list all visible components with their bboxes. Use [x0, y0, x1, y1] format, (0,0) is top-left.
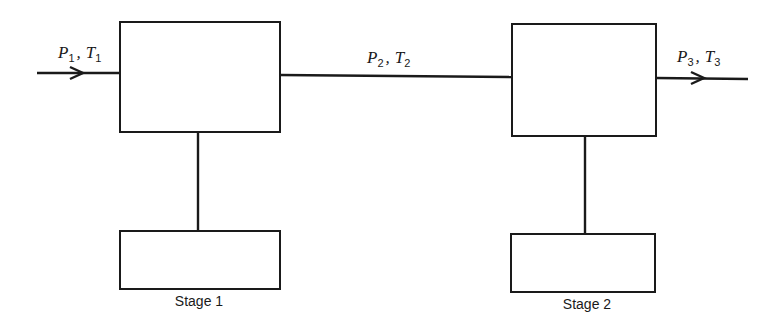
stage-1-label: Stage 1: [175, 293, 223, 309]
stage-1-main-box: [120, 22, 280, 132]
outlet-label: P3,T3: [676, 47, 720, 68]
inlet-label: P1,T1: [57, 43, 101, 64]
process-diagram: P1,T1 Stage 1 P2,T2 Stage 2 P3,T3: [0, 0, 775, 324]
outlet-stream: P3,T3: [656, 47, 748, 84]
interstage-stream: P2,T2: [280, 48, 512, 77]
stage-1-lower-box: [120, 231, 280, 289]
inlet-stream: P1,T1: [37, 43, 121, 79]
stage-2-main-box: [512, 24, 656, 136]
stage-2-label: Stage 2: [563, 296, 611, 312]
stage-2-lower-box: [511, 234, 655, 292]
interstage-line: [280, 75, 512, 77]
interstage-label: P2,T2: [366, 48, 410, 69]
